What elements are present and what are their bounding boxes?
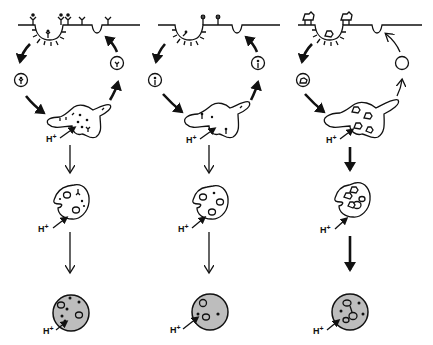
arrow-to-membrane <box>106 37 117 52</box>
panel-left: H+ H+ H+ <box>15 13 141 336</box>
panel-right: H+ H+ H+ <box>297 12 423 336</box>
proton-label: H+ <box>43 325 54 336</box>
arrow-to-endosome <box>26 96 44 113</box>
plasma-membrane <box>158 25 280 40</box>
plasma-membrane <box>18 25 140 40</box>
proton-label: H+ <box>170 324 181 335</box>
arrow-to-vesicle <box>20 44 30 62</box>
proton-label: H+ <box>38 223 49 234</box>
proton-label: H+ <box>326 134 337 145</box>
recycling-vesicle <box>111 57 124 70</box>
proton-label: H+ <box>320 224 331 235</box>
proton-label: H+ <box>186 134 197 145</box>
proton-label: H+ <box>178 223 189 234</box>
lysosome <box>192 294 228 330</box>
coated-vesicle <box>15 74 28 87</box>
lysosome <box>332 294 368 330</box>
endosome <box>185 102 250 138</box>
proton-label: H+ <box>313 325 324 336</box>
lysosome <box>53 295 89 331</box>
late-endosome <box>193 186 228 219</box>
panel-middle: H+ H+ H+ <box>149 15 281 335</box>
thin-recycle-arrow <box>386 34 400 52</box>
endosome <box>324 100 398 138</box>
late-endosome <box>54 185 89 219</box>
plasma-membrane <box>298 25 422 40</box>
thin-recycle-arrow <box>397 80 402 96</box>
proton-label: H+ <box>46 133 57 144</box>
empty-recycling-vesicle <box>396 57 409 70</box>
arrow-to-recycling-vesicle <box>110 82 118 100</box>
endocytosis-diagram: H+ H+ H+ <box>0 0 433 345</box>
